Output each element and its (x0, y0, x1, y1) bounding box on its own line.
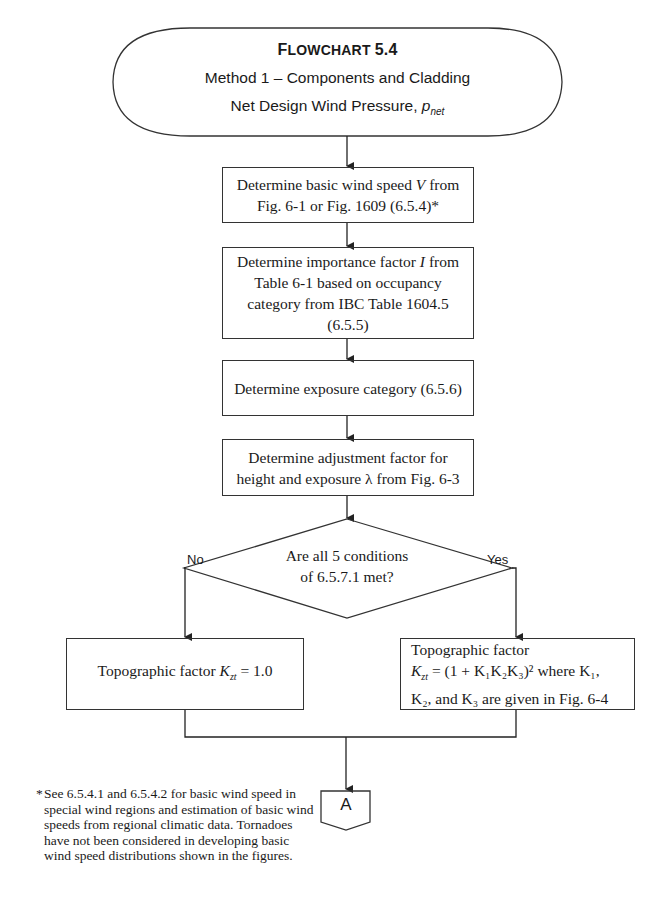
outcome-no-topographic-factor: Topographic factor Kzt = 1.0 (66, 638, 304, 710)
yes-label: Yes (487, 552, 508, 567)
outcome-yes-topographic-factor: Topographic factor Kzt = (1 + K₁K₂K₃)² w… (400, 638, 635, 710)
flowchart-subtitle2: Net Design Wind Pressure, pnet (231, 92, 445, 126)
step-basic-wind-speed: Determine basic wind speed V from Fig. 6… (222, 167, 474, 223)
step-adjustment-factor: Determine adjustment factor for height a… (222, 439, 474, 496)
no-label: No (187, 552, 204, 567)
step-exposure-category: Determine exposure category (6.5.6) (222, 360, 474, 416)
footnote-marker: * (36, 786, 43, 802)
flowchart-number: FLOWCHART 5.4 (277, 36, 397, 64)
flowchart-title: FLOWCHART 5.4 Method 1 – Components and … (115, 25, 560, 138)
step-importance-factor: Determine importance factor I from Table… (222, 247, 474, 339)
decision-text: Are all 5 conditions of 6.5.7.1 met? (264, 545, 430, 587)
footnote: * See 6.5.4.1 and 6.5.4.2 for basic wind… (44, 786, 329, 864)
flowchart-subtitle: Method 1 – Components and Cladding (205, 64, 470, 92)
